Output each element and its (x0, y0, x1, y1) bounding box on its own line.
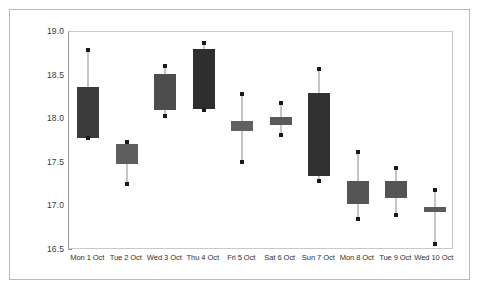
candle-low-marker (202, 108, 206, 112)
candle-10[interactable] (416, 32, 455, 248)
y-axis-tick-labels: 19.018.518.017.517.016.5 (24, 31, 64, 249)
candle-wick (434, 190, 435, 244)
candle-body (424, 207, 446, 211)
candle-high-marker (279, 101, 283, 105)
y-axis-tick-label: 19.0 (47, 26, 64, 36)
candle-low-marker (279, 133, 283, 137)
x-axis-tick-label: Wed 3 Oct (147, 253, 182, 262)
candle-7[interactable] (300, 32, 339, 248)
candle-body (231, 121, 253, 131)
candle-low-marker (86, 136, 90, 140)
y-axis-tick-label: 17.0 (47, 200, 64, 210)
x-axis-tick-label: Tue 9 Oct (379, 253, 411, 262)
candle-high-marker (240, 92, 244, 96)
candle-5[interactable] (223, 32, 262, 248)
candle-body (116, 144, 138, 164)
candle-low-marker (125, 182, 129, 186)
candle-body (154, 74, 176, 110)
x-axis-tick-label: Sun 7 Oct (302, 253, 335, 262)
y-axis-tick-label: 17.5 (47, 157, 64, 167)
candle-high-marker (163, 64, 167, 68)
candle-high-marker (125, 140, 129, 144)
candle-low-marker (163, 114, 167, 118)
candle-low-marker (433, 242, 437, 246)
y-axis-tick-label: 18.0 (47, 113, 64, 123)
candle-high-marker (394, 166, 398, 170)
candle-low-marker (240, 160, 244, 164)
x-axis-tick-label: Tue 2 Oct (110, 253, 142, 262)
candle-body (77, 87, 99, 138)
plot-area (68, 31, 453, 249)
y-axis-tick-mark (68, 249, 72, 250)
candle-8[interactable] (339, 32, 378, 248)
chart-figure: 19.018.518.017.517.016.5 Mon 1 OctTue 2 … (0, 0, 479, 289)
candle-high-marker (86, 48, 90, 52)
candle-body (308, 93, 330, 176)
candle-high-marker (356, 150, 360, 154)
candle-3[interactable] (146, 32, 185, 248)
candle-high-marker (433, 188, 437, 192)
candle-4[interactable] (185, 32, 224, 248)
x-axis-tick-label: Thu 4 Oct (187, 253, 219, 262)
candle-6[interactable] (262, 32, 301, 248)
x-axis-tick-label: Mon 8 Oct (340, 253, 374, 262)
candles-container (69, 32, 452, 248)
candle-body (270, 117, 292, 125)
x-axis-tick-label: Sat 6 Oct (264, 253, 295, 262)
x-axis-tick-label: Mon 1 Oct (70, 253, 104, 262)
y-axis-tick-label: 16.5 (47, 244, 64, 254)
candle-9[interactable] (377, 32, 416, 248)
y-axis-tick-label: 18.5 (47, 70, 64, 80)
candle-low-marker (356, 217, 360, 221)
candle-high-marker (317, 67, 321, 71)
candle-1[interactable] (69, 32, 108, 248)
candle-low-marker (394, 213, 398, 217)
candle-high-marker (202, 41, 206, 45)
candle-body (193, 49, 215, 109)
x-axis-tick-labels: Mon 1 OctTue 2 OctWed 3 OctThu 4 OctFri … (68, 253, 453, 269)
candle-low-marker (317, 179, 321, 183)
candle-body (347, 181, 369, 204)
x-axis-tick-label: Fri 5 Oct (227, 253, 255, 262)
candle-2[interactable] (108, 32, 147, 248)
x-axis-tick-label: Wed 10 Oct (414, 253, 453, 262)
candle-body (385, 181, 407, 198)
